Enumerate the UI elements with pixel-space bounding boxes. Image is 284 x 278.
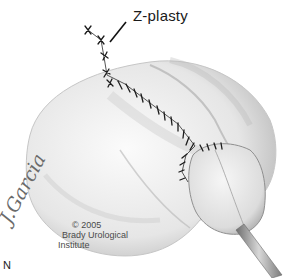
surgical-illustration: [0, 0, 284, 278]
glans: [189, 144, 266, 235]
catheter: [236, 224, 282, 278]
copyright-notice: © 2005 Brady Urological Institute: [62, 220, 128, 250]
callout-leader: [110, 22, 126, 42]
callout-label: Z-plasty: [133, 7, 188, 24]
copyright-org-1: Brady Urological: [62, 230, 128, 240]
copyright-org-2: Institute: [58, 240, 128, 250]
panel-letter: N: [3, 259, 11, 271]
copyright-year: © 2005: [62, 220, 128, 230]
illustration-canvas: Z-plasty J.Garcia © 2005 Brady Urologica…: [0, 0, 284, 278]
